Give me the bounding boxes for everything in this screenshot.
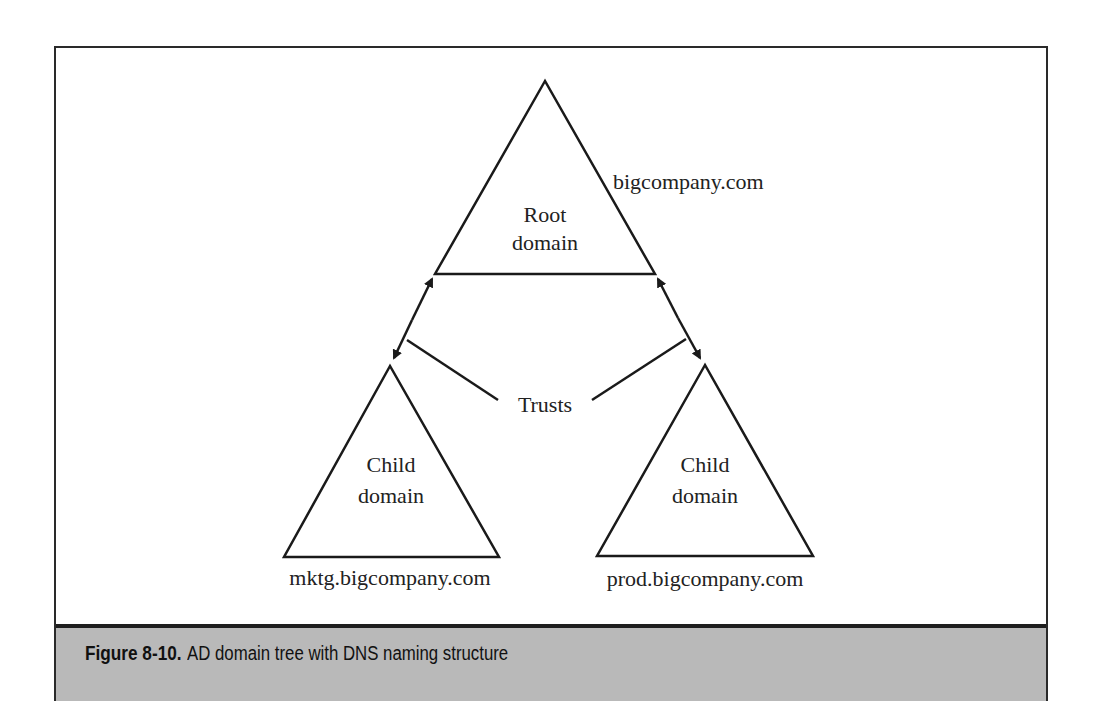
trust-arrow-left [394,279,432,358]
trust-arrow-right [658,279,700,358]
child-domain-prod-dns-name: prod.bigcompany.com [607,566,804,591]
child-domain-prod-title-line1: Child [681,452,730,477]
trusts-leader-line-left [407,340,498,400]
root-domain-dns-name: bigcompany.com [613,169,764,194]
domain-tree-diagram: Root domain bigcompany.com Child domain … [56,48,1046,624]
figure-caption: AD domain tree with DNS naming structure [187,642,508,665]
child-domain-mktg-title-line1: Child [367,452,416,477]
child-domain-triangle-prod: Child domain [597,365,813,556]
figure-frame: Root domain bigcompany.com Child domain … [54,46,1048,701]
root-domain-title-line2: domain [512,230,578,255]
figure-number: Figure 8-10. [85,642,182,665]
figure-caption-band: Figure 8-10. AD domain tree with DNS nam… [56,624,1046,701]
trusts-leader-line-right [592,339,686,400]
root-domain-title-line1: Root [524,202,567,227]
child-domain-prod-title-line2: domain [672,483,738,508]
child-domain-mktg-dns-name: mktg.bigcompany.com [289,565,490,590]
trusts-label: Trusts [518,392,572,417]
diagram-canvas: Root domain bigcompany.com Child domain … [56,48,1050,624]
child-domain-mktg-title-line2: domain [358,483,424,508]
child-domain-triangle-mktg: Child domain [284,366,499,557]
